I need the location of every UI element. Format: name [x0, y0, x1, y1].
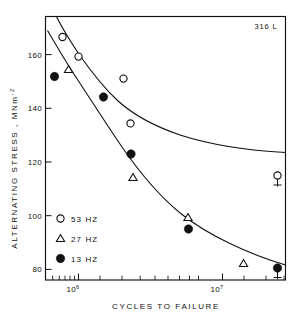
y-tick-label-100: 100 [28, 212, 42, 221]
legend-marker-open-circle-icon [57, 215, 64, 222]
y-axis-title-exponent: -2 [9, 87, 15, 95]
x-axis-minor-ticks [53, 274, 284, 281]
x-tick-exp-1e7: 7 [220, 284, 223, 290]
x-tick-base-1e7: 10 [211, 285, 221, 294]
data-point-53hz-runout [274, 172, 282, 187]
x-axis-title: CYCLES TO FAILURE [112, 302, 220, 311]
y-axis-title: ALTERNATING STRESS , MNm-2 [9, 87, 19, 248]
figure-container: 160 140 120 100 80 [0, 0, 302, 321]
data-point-53hz [59, 33, 66, 40]
data-point-13hz-runout [273, 264, 281, 279]
data-point-27hz [129, 174, 137, 181]
x-tick-label-1e6: 106 [67, 284, 80, 295]
legend-item-53hz: 53 HZ [57, 215, 98, 224]
x-tick-label-1e7: 107 [211, 284, 224, 295]
fit-curves [48, 17, 286, 266]
upper-fit-curve [57, 17, 286, 153]
y-axis-title-group: ALTERNATING STRESS , MNm-2 [9, 87, 19, 248]
data-point-13hz [184, 225, 192, 233]
data-point-53hz [274, 172, 281, 179]
data-point-13hz [50, 72, 58, 80]
legend-item-13hz: 13 HZ [56, 254, 98, 263]
data-point-53hz [127, 120, 134, 127]
x-tick-exp-1e6: 6 [76, 284, 79, 290]
data-point-13hz [99, 93, 107, 101]
data-point-13hz [127, 150, 135, 158]
x-axis-tick-labels: 106 107 [67, 284, 224, 295]
y-axis-ticks [46, 55, 52, 270]
lower-fit-curve [48, 31, 286, 266]
chart-svg: 160 140 120 100 80 [0, 0, 302, 321]
series-13hz-points [50, 72, 281, 279]
legend-marker-open-triangle-icon [56, 235, 64, 242]
data-point-53hz [120, 75, 127, 82]
corner-annotation-316l: 316 L [255, 22, 278, 31]
y-tick-label-80: 80 [33, 265, 43, 274]
legend-label-27hz: 27 HZ [71, 235, 98, 244]
legend-label-53hz: 53 HZ [71, 215, 98, 224]
y-tick-label-140: 140 [28, 104, 42, 113]
y-axis-title-text: ALTERNATING STRESS , MNm [10, 95, 19, 248]
series-53hz-points [59, 33, 282, 186]
legend-item-27hz: 27 HZ [56, 235, 98, 244]
y-tick-label-160: 160 [28, 51, 42, 60]
legend-marker-filled-circle-icon [56, 254, 64, 262]
legend: 53 HZ 27 HZ 13 HZ [56, 215, 98, 264]
data-point-13hz [273, 264, 281, 272]
y-axis-tick-labels: 160 140 120 100 80 [28, 51, 42, 275]
x-tick-base-1e6: 10 [67, 285, 77, 294]
legend-label-13hz: 13 HZ [71, 255, 98, 264]
data-point-27hz [239, 260, 247, 267]
y-tick-label-120: 120 [28, 158, 42, 167]
data-point-53hz [75, 53, 82, 60]
